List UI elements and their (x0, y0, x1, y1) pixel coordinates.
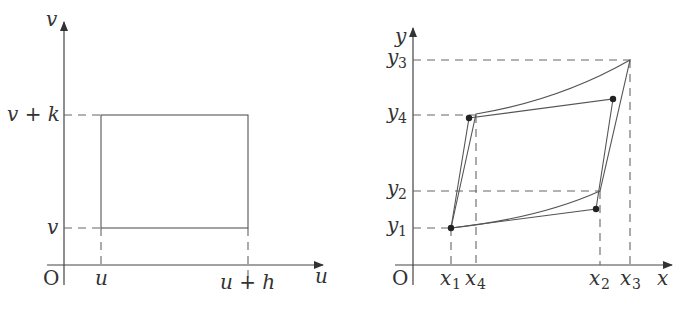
svg-text:4: 4 (477, 276, 486, 292)
svg-text:1: 1 (452, 276, 461, 292)
diagram-canvas: O u v u u + h v + k v O x y x 1 x (0, 0, 681, 318)
tick-v-plus-k: v + k (7, 102, 60, 126)
curved-region (451, 60, 630, 228)
origin-label: O (43, 266, 59, 290)
vertex-dot-4 (466, 115, 472, 121)
tick-x1: x 1 (440, 266, 461, 292)
x-axis-label: x (657, 266, 668, 290)
svg-text:x: x (465, 266, 476, 290)
vertex-dot-3 (610, 96, 616, 102)
tick-y1: y 1 (386, 213, 407, 239)
left-diagram: O u v u u + h v + k v (7, 7, 328, 294)
tick-y2: y 2 (386, 176, 407, 202)
tick-x2: x 2 (589, 266, 610, 292)
svg-text:x: x (620, 266, 631, 290)
v-axis-label: v (46, 7, 58, 31)
tick-x4: x 4 (465, 266, 486, 292)
right-diagram: O x y x 1 x 4 x 2 x 3 y 3 y 4 y 2 (386, 24, 672, 292)
tick-x3: x 3 (620, 266, 641, 292)
tick-u-plus-h: u + h (220, 270, 275, 294)
tick-v: v (47, 215, 59, 239)
svg-text:3: 3 (398, 55, 407, 71)
origin-label: O (392, 266, 408, 290)
svg-text:4: 4 (398, 110, 407, 126)
u-axis-label: u (315, 264, 328, 288)
vertex-dot-1 (448, 225, 454, 231)
tick-y4: y 4 (386, 100, 407, 126)
svg-text:x: x (589, 266, 600, 290)
svg-text:2: 2 (601, 276, 610, 292)
uv-rectangle (101, 115, 248, 228)
vertex-dot-2 (593, 206, 599, 212)
svg-text:2: 2 (398, 186, 407, 202)
tick-u: u (95, 266, 108, 290)
svg-text:1: 1 (398, 223, 407, 239)
tick-y3: y 3 (386, 45, 407, 71)
svg-text:3: 3 (632, 276, 641, 292)
svg-text:x: x (440, 266, 451, 290)
